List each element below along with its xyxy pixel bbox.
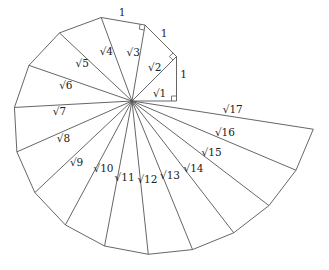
unit-edge-12 [148,250,192,255]
label-sqrt-11: √11 [115,171,135,183]
spoke-sqrt-4 [101,18,132,101]
unit-edge-13 [193,233,234,250]
unit-edge-9 [35,193,66,225]
label-sqrt-14: √14 [183,162,203,174]
right-angle-marker-1 [172,96,177,101]
label-sqrt-10: √10 [93,162,113,174]
label-sqrt-12: √12 [137,173,157,185]
unit-edge-4 [59,18,101,33]
label-sqrt-17: √17 [223,103,243,115]
spoke-sqrt-8 [17,101,132,152]
unit-edge-3 [101,18,145,26]
label-sqrt-9: √9 [70,156,83,168]
label-sqrt-1: √1 [153,87,166,99]
right-angle-marker-2 [169,53,173,60]
spoke-sqrt-6 [29,65,132,101]
label-sqrt-13: √13 [160,169,180,181]
unit-edge-11 [105,246,149,254]
label-sqrt-8: √8 [57,132,70,144]
label-sqrt-5: √5 [76,57,89,69]
unit-edge-16 [296,129,313,170]
unit-edge-7 [14,107,16,151]
label-sqrt-16: √16 [215,126,235,138]
unit-label-1: 1 [180,68,187,80]
spiral-of-theodorus-diagram: √1√2√3√4√5√6√7√8√9√10√11√12√13√14√15√16√… [0,0,329,270]
label-sqrt-3: √3 [126,46,139,58]
label-sqrt-4: √4 [100,45,114,57]
label-sqrt-7: √7 [53,105,66,117]
unit-edge-15 [269,170,296,205]
label-sqrt-2: √2 [148,61,161,73]
unit-edge-10 [65,225,104,246]
unit-edge-5 [29,33,59,65]
label-sqrt-6: √6 [59,79,73,91]
label-sqrt-15: √15 [202,146,222,158]
unit-edge-8 [17,152,35,193]
unit-label-2: 1 [161,27,168,39]
unit-edge-6 [14,65,29,107]
spoke-sqrt-7 [14,101,132,107]
spoke-sqrt-5 [59,33,132,101]
unit-label-3: 1 [119,6,126,18]
unit-edge-14 [234,206,269,233]
